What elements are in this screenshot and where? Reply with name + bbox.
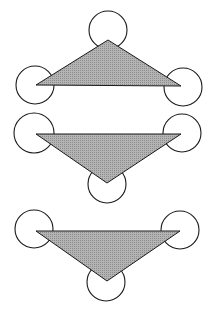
shaded-triangle [36,134,181,183]
diagram-canvas [0,0,213,322]
figure-downward-triangle-middle [14,113,201,203]
vertex-circle [15,210,53,248]
vertex-circle [14,113,54,153]
figure-downward-triangle-bottom [15,210,199,301]
shaded-triangle [36,231,180,281]
figures-layer [14,11,202,301]
shaded-triangle [36,40,181,86]
vertex-circle [161,211,199,249]
vertex-circle [164,68,202,106]
figure-upward-triangle [16,11,202,106]
vertex-circle [163,114,201,152]
